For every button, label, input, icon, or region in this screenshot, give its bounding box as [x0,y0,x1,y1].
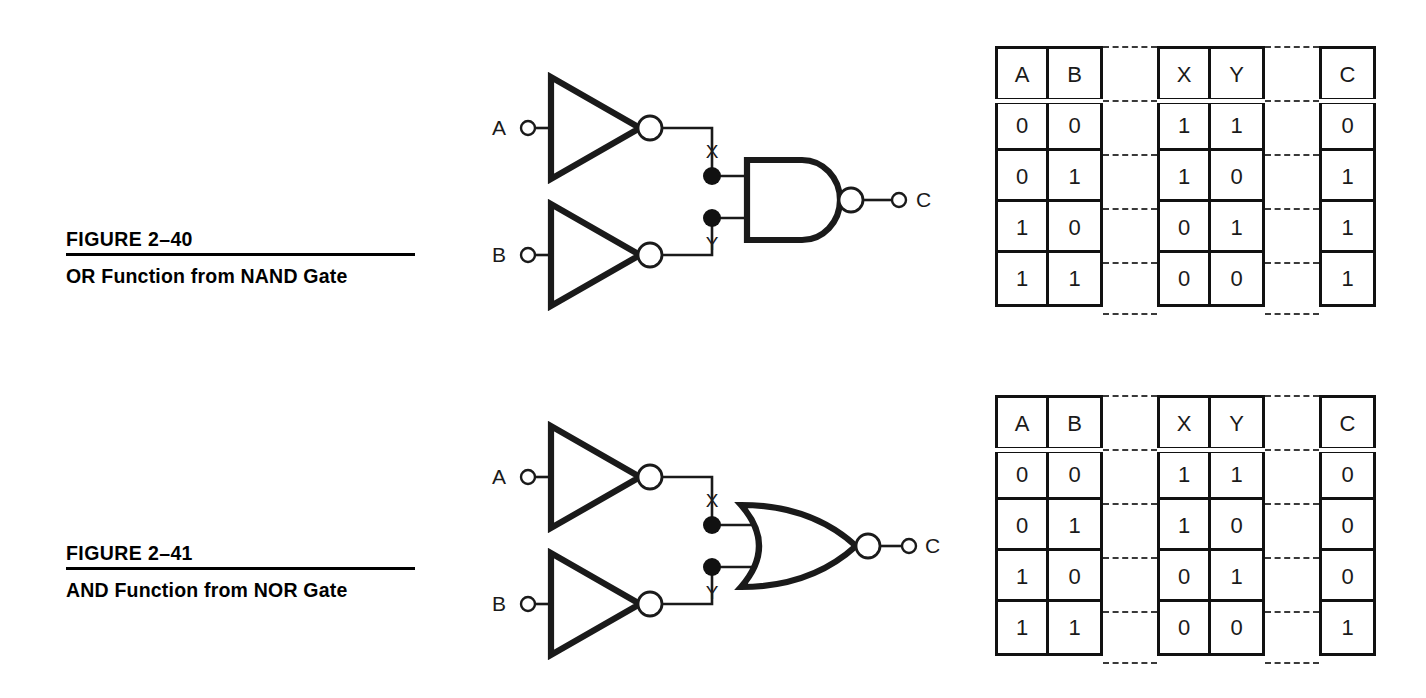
dashed-connector [1103,313,1157,315]
table-cell: 1 [1211,449,1262,500]
table-cell: 1 [1049,500,1100,551]
table-header-row: X Y [1160,398,1262,449]
dashed-connector [1265,262,1319,264]
table-row: 0 [1322,551,1373,602]
table-row: 0 0 [998,100,1100,151]
table-cell: 0 [1160,551,1211,602]
nand-gate-icon [747,160,840,240]
table-cell: 0 [1211,602,1262,653]
dashed-connector [1265,503,1319,505]
wire-junction-dot-icon-y [703,209,721,227]
table-cell: 0 [1322,100,1373,151]
circuit-node-label-x: X [706,490,719,511]
dashed-connector [1265,154,1319,156]
nor-and-equivalent-circuit: A B X Y C [488,383,940,673]
table-header-row: A B [998,398,1100,449]
pin-terminal-icon-b [521,248,535,262]
table-row: 0 1 [1160,551,1262,602]
figure-number: FIGURE 2–40 [66,228,426,250]
dashed-connector [1103,503,1157,505]
truth-table-figure-2-41: A B 0 0 0 1 1 0 1 1 [995,395,1376,656]
nand-or-equivalent-circuit: A B X Y C [488,34,940,324]
circuit-input-label-a: A [492,465,506,488]
table-cell: 0 [1322,500,1373,551]
dashed-connector [1103,100,1157,102]
dashed-connector [1103,208,1157,210]
table-connector-gutter-2 [1265,46,1319,307]
figure-number: FIGURE 2–41 [66,542,426,564]
column-header: C [1322,398,1373,449]
column-header: B [1049,49,1100,100]
dashed-connector [1103,449,1157,451]
table-cell: 0 [998,449,1049,500]
circuit-output-label-c: C [925,534,940,557]
inversion-bubble-icon-output [839,188,863,212]
caption-divider [66,567,415,570]
table-row: 1 1 [1160,449,1262,500]
table-cell: 1 [998,551,1049,602]
figure-2-41-block: FIGURE 2–41 AND Function from NOR Gate A… [0,349,1426,698]
table-connector-gutter-1 [1103,395,1157,656]
table-cell: 0 [1211,253,1262,304]
table-cell: 1 [1049,253,1100,304]
table-cell: 1 [998,602,1049,653]
table-group-intermediates: X Y 1 1 1 0 0 1 0 0 [1157,46,1265,307]
table-row: 1 1 [998,602,1100,653]
table-cell: 0 [1049,202,1100,253]
dashed-connector [1103,154,1157,156]
pin-terminal-icon-b [521,597,535,611]
dashed-connector [1265,46,1319,48]
dashed-connector [1265,100,1319,102]
table-cell: 0 [1322,551,1373,602]
table-group-output: C 0 1 1 1 [1319,46,1376,307]
column-header: Y [1211,398,1262,449]
table-group-inputs: A B 0 0 0 1 1 0 1 1 [995,395,1103,656]
inversion-bubble-icon-output [856,534,880,558]
figure-title: AND Function from NOR Gate [66,579,426,602]
table-row: 0 0 [1160,253,1262,304]
dashed-connector [1103,262,1157,264]
column-header: Y [1211,49,1262,100]
figure-2-41-caption: FIGURE 2–41 AND Function from NOR Gate [66,542,426,602]
table-cell: 0 [1211,500,1262,551]
pin-terminal-icon-c [892,193,906,207]
table-row: 0 [1322,449,1373,500]
dashed-connector [1103,611,1157,613]
table-row: 0 0 [1160,602,1262,653]
table-cell: 1 [1322,202,1373,253]
table-cell: 0 [1211,151,1262,202]
table-cell: 0 [1160,602,1211,653]
circuit-input-label-b: B [492,243,506,266]
table-cell: 0 [998,100,1049,151]
pin-terminal-icon-c [902,539,916,553]
wire-junction-dot-icon-x [703,167,721,185]
inversion-bubble-icon-b [638,592,662,616]
circuit-node-label-y: Y [706,233,719,254]
table-group-intermediates: X Y 1 1 1 0 0 1 0 0 [1157,395,1265,656]
table-row: 1 0 [1160,151,1262,202]
table-row: 0 1 [998,500,1100,551]
table-group-output: C 0 0 0 1 [1319,395,1376,656]
table-cell: 1 [1160,449,1211,500]
table-cell: 1 [1049,602,1100,653]
table-row: 0 [1322,100,1373,151]
table-header-row: A B [998,49,1100,100]
table-cell: 1 [1211,551,1262,602]
figure-2-40-caption: FIGURE 2–40 OR Function from NAND Gate [66,228,426,288]
table-row: 1 [1322,253,1373,304]
table-row: 1 [1322,202,1373,253]
table-row: 0 [1322,500,1373,551]
table-row: 1 [1322,602,1373,653]
inverter-gate-icon-a [551,426,640,528]
table-cell: 1 [1322,253,1373,304]
caption-divider [66,253,415,256]
table-cell: 0 [1049,449,1100,500]
dashed-connector [1265,395,1319,397]
table-cell: 1 [1160,500,1211,551]
table-row: 0 1 [1160,202,1262,253]
column-header: A [998,49,1049,100]
column-header: B [1049,398,1100,449]
table-cell: 1 [1322,602,1373,653]
circuit-input-label-b: B [492,592,506,615]
table-row: 0 1 [998,151,1100,202]
